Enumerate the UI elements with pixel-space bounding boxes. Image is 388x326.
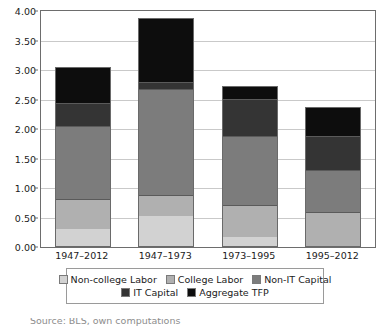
caption-text: Source: BLS, own computations: [30, 318, 180, 326]
legend-label: Non-college Labor: [71, 273, 157, 286]
chart-legend: Non-college LaborCollege LaborNon-IT Cap…: [66, 268, 324, 304]
legend-item-aggregate-tfp[interactable]: Aggregate TFP: [187, 286, 269, 299]
y-tick-label: 4.00: [15, 6, 36, 17]
legend-item-non-it-capital[interactable]: Non-IT Capital: [252, 273, 331, 286]
legend-label: IT Capital: [133, 286, 178, 299]
y-tick-label: 0.50: [15, 212, 36, 223]
x-axis: 1947–20121947–19731973–19951995–2012: [40, 250, 376, 266]
y-tick-label: 2.50: [15, 94, 36, 105]
y-tick-mark: [34, 247, 38, 248]
legend-swatch-icon: [166, 275, 175, 284]
y-tick-label: 3.50: [15, 35, 36, 46]
y-tick-mark: [34, 217, 38, 218]
y-tick-label: 1.00: [15, 183, 36, 194]
legend-swatch-icon: [187, 288, 196, 297]
legend-label: College Labor: [178, 273, 243, 286]
y-tick-label: 0.00: [15, 242, 36, 253]
legend-swatch-icon: [121, 288, 130, 297]
y-tick-label: 3.00: [15, 65, 36, 76]
y-tick-label: 1.50: [15, 153, 36, 164]
legend-item-college-labor[interactable]: College Labor: [166, 273, 243, 286]
y-tick-mark: [34, 11, 38, 12]
legend-swatch-icon: [252, 275, 261, 284]
legend-row-1: Non-college LaborCollege LaborNon-IT Cap…: [70, 273, 320, 286]
legend-item-non-college-labor[interactable]: Non-college Labor: [59, 273, 157, 286]
clipped-caption-area: Source: BLS, own computations: [0, 318, 388, 326]
y-axis: 0.000.501.001.502.002.503.003.504.00: [0, 10, 376, 248]
y-tick-mark: [34, 129, 38, 130]
x-tick-label: 1995–2012: [306, 250, 359, 261]
y-tick-mark: [34, 158, 38, 159]
legend-row-2: IT CapitalAggregate TFP: [70, 286, 320, 299]
y-tick-mark: [34, 40, 38, 41]
x-tick-label: 1947–1973: [139, 250, 192, 261]
legend-label: Non-IT Capital: [264, 273, 331, 286]
x-tick-label: 1973–1995: [222, 250, 275, 261]
y-tick-mark: [34, 99, 38, 100]
legend-item-it-capital[interactable]: IT Capital: [121, 286, 178, 299]
x-tick-label: 1947–2012: [55, 250, 108, 261]
stacked-bar-chart-figure: 0.000.501.001.502.002.503.003.504.00 194…: [0, 0, 388, 326]
legend-label: Aggregate TFP: [199, 286, 269, 299]
y-tick-label: 2.00: [15, 124, 36, 135]
y-tick-mark: [34, 188, 38, 189]
y-tick-mark: [34, 70, 38, 71]
legend-swatch-icon: [59, 275, 68, 284]
